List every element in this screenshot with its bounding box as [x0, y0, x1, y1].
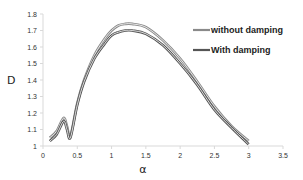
- y-axis-label: D: [7, 74, 15, 87]
- line-chart: 11.11.21.31.41.51.61.71.800.511.522.533.…: [0, 0, 303, 180]
- y-tick-label: 1.1: [27, 126, 37, 133]
- x-tick-label: 2: [178, 152, 182, 159]
- legend: without dampingWith damping: [193, 25, 283, 55]
- x-tick-label: 3: [247, 152, 251, 159]
- x-axis-label: α: [139, 163, 146, 176]
- y-tick-label: 1.7: [27, 27, 37, 34]
- y-tick-label: 1.2: [27, 110, 37, 117]
- y-tick-label: 1.8: [27, 11, 37, 18]
- legend-label-with-damping: With damping: [211, 45, 270, 55]
- y-tick-label: 1.4: [27, 77, 37, 84]
- y-tick-label: 1.5: [27, 60, 37, 67]
- x-tick-label: 3.5: [278, 152, 288, 159]
- series-line-without-damping: [50, 24, 249, 141]
- y-tick-label: 1.6: [27, 44, 37, 51]
- y-tick-label: 1: [33, 143, 37, 150]
- x-tick-label: 1.5: [141, 152, 151, 159]
- x-tick-label: 2.5: [210, 152, 220, 159]
- y-tick-label: 1.3: [27, 93, 37, 100]
- x-tick-label: 0.5: [72, 152, 82, 159]
- x-tick-label: 0: [41, 152, 45, 159]
- plot-area: [50, 24, 249, 145]
- legend-label-without-damping: without damping: [210, 25, 283, 35]
- series-line-inner-without-damping: [50, 24, 249, 141]
- x-tick-label: 1: [110, 152, 114, 159]
